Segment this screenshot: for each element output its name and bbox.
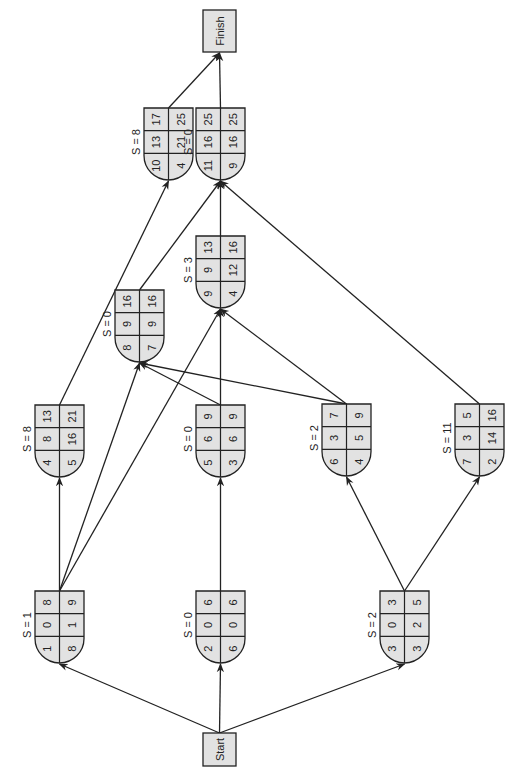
edge-n6-to-n8 xyxy=(140,363,347,404)
node-cell-value: 10 xyxy=(150,160,162,172)
node-cell-value: 16 xyxy=(486,409,498,421)
edge-n7-to-n11 xyxy=(221,181,480,404)
activity-node[interactable]: 637459S = 2 xyxy=(308,404,371,476)
node-cell-value: 9 xyxy=(227,413,239,419)
finish-node[interactable]: Finish xyxy=(203,10,236,52)
node-cell-value: 13 xyxy=(202,241,214,253)
node-cell-value: 0 xyxy=(202,622,214,628)
node-cell-value: 16 xyxy=(202,136,214,148)
node-cell-value: 1 xyxy=(41,646,53,652)
node-cell-value: 4 xyxy=(227,291,239,297)
node-cell-value: 25 xyxy=(227,113,239,125)
slack-label: S = 0 xyxy=(182,129,194,155)
slack-label: S = 2 xyxy=(366,612,378,638)
node-cell-value: 8 xyxy=(41,436,53,442)
node-cell-value: 2 xyxy=(202,646,214,652)
node-cell-value: 25 xyxy=(175,113,187,125)
node-cell-value: 6 xyxy=(202,436,214,442)
activity-node[interactable]: 481351621S = 8 xyxy=(21,405,84,477)
node-cell-value: 9 xyxy=(202,413,214,419)
edge-n11-to-finish xyxy=(220,53,221,108)
slack-label: S = 0 xyxy=(182,612,194,638)
node-cell-value: 6 xyxy=(227,646,239,652)
node-cell-value: 9 xyxy=(202,267,214,273)
node-cell-value: 4 xyxy=(175,163,187,169)
node-cell-value: 7 xyxy=(461,459,473,465)
node-cell-value: 0 xyxy=(41,622,53,628)
edge-n6-to-n9 xyxy=(221,309,347,404)
edge-start-to-n1 xyxy=(60,664,220,733)
network-diagram: 108819S = 1206606S = 0303325S = 24813516… xyxy=(0,0,513,776)
node-cell-value: 12 xyxy=(227,264,239,276)
edge-n5-to-n8 xyxy=(140,363,221,405)
node-cell-value: 3 xyxy=(328,435,340,441)
edge-start-to-n2 xyxy=(220,664,221,733)
edge-n3-to-n6 xyxy=(347,477,405,591)
edge-n10-to-finish xyxy=(169,53,220,108)
node-cell-value: 8 xyxy=(41,599,53,605)
slack-label: S = 1 xyxy=(21,612,33,638)
node-cell-value: 2 xyxy=(411,622,423,628)
node-cell-value: 9 xyxy=(66,599,78,605)
node-cell-value: 7 xyxy=(146,345,158,351)
node-cell-value: 3 xyxy=(227,460,239,466)
node-cell-value: 16 xyxy=(227,136,239,148)
node-cell-value: 16 xyxy=(66,433,78,445)
node-cell-value: 5 xyxy=(66,460,78,466)
node-cell-value: 4 xyxy=(353,459,365,465)
node-cell-value: 9 xyxy=(121,321,133,327)
node-cell-value: 9 xyxy=(227,163,239,169)
node-cell-value: 7 xyxy=(328,412,340,418)
activity-node[interactable]: 108819S = 1 xyxy=(21,591,84,663)
edge-n3-to-n7 xyxy=(405,477,480,591)
node-cell-value: 6 xyxy=(202,599,214,605)
edge-n1-to-n8 xyxy=(60,363,140,591)
slack-label: S = 2 xyxy=(308,425,320,451)
node-cell-value: 4 xyxy=(41,460,53,466)
nodes-layer: 108819S = 1206606S = 0303325S = 24813516… xyxy=(21,108,504,663)
node-cell-value: 11 xyxy=(202,160,214,171)
node-cell-value: 6 xyxy=(227,436,239,442)
node-cell-value: 16 xyxy=(227,241,239,253)
slack-label: S = 8 xyxy=(130,129,142,155)
node-cell-value: 5 xyxy=(353,435,365,441)
activity-node[interactable]: 569369S = 0 xyxy=(182,405,245,477)
node-cell-value: 9 xyxy=(202,291,214,297)
node-cell-value: 3 xyxy=(386,646,398,652)
start-node[interactable]: Start xyxy=(203,733,236,766)
node-cell-value: 6 xyxy=(328,459,340,465)
activity-node[interactable]: 991341216S = 3 xyxy=(182,236,245,308)
node-cell-value: 9 xyxy=(146,321,158,327)
node-cell-value: 16 xyxy=(146,295,158,307)
node-cell-value: 21 xyxy=(66,410,78,422)
node-cell-value: 3 xyxy=(386,599,398,605)
node-cell-value: 8 xyxy=(121,345,133,351)
activity-node[interactable]: 303325S = 2 xyxy=(366,591,429,663)
node-cell-value: 14 xyxy=(486,432,498,444)
edge-start-to-n3 xyxy=(220,664,405,733)
node-cell-value: 0 xyxy=(386,622,398,628)
node-cell-value: 3 xyxy=(411,646,423,652)
start-label: Start xyxy=(214,738,226,761)
node-cell-value: 25 xyxy=(202,113,214,125)
slack-label: S = 3 xyxy=(182,257,194,283)
node-cell-value: 2 xyxy=(486,459,498,465)
finish-label: Finish xyxy=(214,16,226,45)
node-cell-value: 13 xyxy=(41,410,53,422)
slack-label: S = 0 xyxy=(182,426,194,452)
node-cell-value: 13 xyxy=(150,136,162,148)
node-cell-value: 8 xyxy=(66,646,78,652)
node-cell-value: 17 xyxy=(150,113,162,125)
node-cell-value: 6 xyxy=(227,599,239,605)
slack-label: S = 0 xyxy=(101,311,113,337)
activity-node[interactable]: 206606S = 0 xyxy=(182,591,245,663)
node-cell-value: 9 xyxy=(353,412,365,418)
node-cell-value: 0 xyxy=(227,622,239,628)
node-cell-value: 16 xyxy=(121,295,133,307)
activity-node[interactable]: 73521416S = 11 xyxy=(441,404,504,476)
node-cell-value: 5 xyxy=(202,460,214,466)
node-cell-value: 1 xyxy=(66,622,78,628)
node-cell-value: 3 xyxy=(461,435,473,441)
slack-label: S = 11 xyxy=(441,422,453,453)
node-cell-value: 5 xyxy=(411,599,423,605)
